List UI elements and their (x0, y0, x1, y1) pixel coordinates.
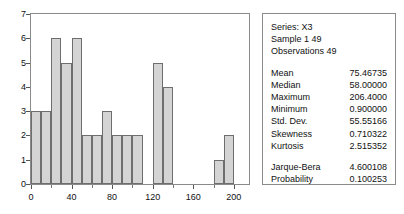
histogram-bar (163, 87, 173, 184)
histogram-bar (72, 38, 82, 184)
histogram-bar (102, 111, 112, 184)
statistics-panel: Series: X3 Sample 1 49 Observations 49 M… (262, 13, 396, 185)
x-axis-tick-label: 0 (28, 193, 33, 202)
observations-label: Observations 49 (271, 45, 387, 57)
statistic-value: 0.100253 (349, 173, 387, 185)
series-label: Series: X3 (271, 21, 387, 33)
x-axis-minor-tick-mark (214, 185, 215, 188)
statistic-row: Std. Dev.55.55166 (271, 115, 387, 127)
statistic-label: Skewness (271, 128, 312, 140)
histogram-bars (31, 14, 249, 184)
statistic-label: Jarque-Bera (271, 161, 321, 173)
statistic-value: 0.900000 (349, 103, 387, 115)
statistic-row: Skewness0.710322 (271, 128, 387, 140)
x-axis-minor-tick-mark (92, 185, 93, 188)
x-axis: 04080120160200 (0, 185, 252, 214)
statistic-row: Kurtosis2.515352 (271, 140, 387, 152)
histogram-bar (41, 111, 51, 184)
statistic-value: 0.710322 (349, 128, 387, 140)
histogram-bar (112, 135, 122, 184)
statistic-row: Median58.00000 (271, 79, 387, 91)
histogram-bar (224, 135, 234, 184)
histogram-bar (31, 111, 41, 184)
x-axis-tick-label: 40 (67, 193, 77, 202)
statistic-row: Mean75.46735 (271, 67, 387, 79)
summary-statistics-list: Mean75.46735Median58.00000Maximum206.400… (271, 67, 387, 152)
x-axis-tick-mark (112, 185, 113, 189)
histogram-bar (61, 63, 71, 184)
statistic-value: 206.4000 (349, 91, 387, 103)
statistic-label: Kurtosis (271, 140, 304, 152)
x-axis-tick-mark (193, 185, 194, 189)
statistic-value: 58.00000 (349, 79, 387, 91)
statistic-row: Minimum0.900000 (271, 103, 387, 115)
histogram-bar (122, 135, 132, 184)
x-axis-minor-tick-mark (132, 185, 133, 188)
y-axis-tick-label: 6 (4, 34, 26, 43)
y-axis: 01234567 (0, 0, 30, 186)
statistic-label: Minimum (271, 103, 308, 115)
statistic-label: Median (271, 79, 301, 91)
statistic-label: Probability (271, 173, 313, 185)
x-axis-minor-tick-mark (173, 185, 174, 188)
eviews-histogram-stats-view: 01234567 04080120160200 Series: X3 Sampl… (0, 0, 404, 214)
x-axis-tick-mark (31, 185, 32, 189)
normality-test-list: Jarque-Bera4.600108Probability0.100253 (271, 161, 387, 185)
x-axis-tick-label: 80 (107, 193, 117, 202)
histogram-bar (82, 135, 92, 184)
y-axis-tick-label: 1 (4, 155, 26, 164)
y-axis-tick-label: 2 (4, 131, 26, 140)
histogram-bar (132, 135, 142, 184)
statistic-value: 55.55166 (349, 115, 387, 127)
statistic-value: 2.515352 (349, 140, 387, 152)
x-axis-tick-mark (234, 185, 235, 189)
histogram-bar (153, 63, 163, 184)
histogram-panel: 01234567 04080120160200 (0, 0, 252, 214)
histogram-bar (92, 135, 102, 184)
sample-label: Sample 1 49 (271, 33, 387, 45)
y-axis-tick-label: 4 (4, 82, 26, 91)
statistic-label: Maximum (271, 91, 310, 103)
histogram-bar (214, 160, 224, 184)
x-axis-minor-tick-mark (51, 185, 52, 188)
statistic-value: 4.600108 (349, 161, 387, 173)
stats-spacer-bottom (271, 152, 387, 161)
y-axis-tick-label: 7 (4, 10, 26, 19)
x-axis-tick-label: 120 (145, 193, 160, 202)
histogram-bar (51, 38, 61, 184)
normality-test-row: Probability0.100253 (271, 173, 387, 185)
normality-test-row: Jarque-Bera4.600108 (271, 161, 387, 173)
y-axis-tick-label: 5 (4, 58, 26, 67)
statistic-row: Maximum206.4000 (271, 91, 387, 103)
x-axis-tick-mark (72, 185, 73, 189)
stats-spacer-top (271, 58, 387, 67)
statistic-label: Mean (271, 67, 294, 79)
y-axis-tick-label: 3 (4, 107, 26, 116)
x-axis-tick-label: 200 (226, 193, 241, 202)
x-axis-tick-mark (153, 185, 154, 189)
statistic-value: 75.46735 (349, 67, 387, 79)
statistic-label: Std. Dev. (271, 115, 307, 127)
x-axis-tick-label: 160 (186, 193, 201, 202)
